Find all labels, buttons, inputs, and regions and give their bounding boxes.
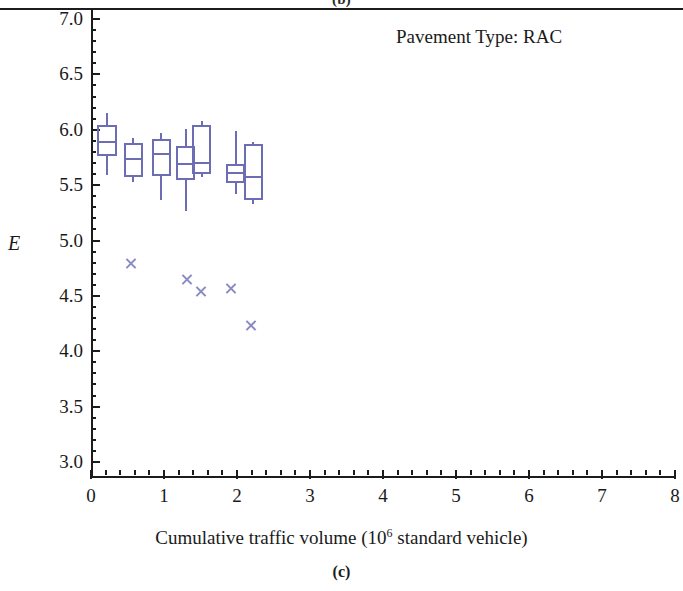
boxplot-lower-whisker	[160, 176, 162, 199]
x-axis-tick-major	[309, 470, 311, 479]
y-axis-tick-minor	[91, 361, 96, 363]
y-axis-tick-label: 6.5	[35, 64, 83, 83]
boxplot-median-line	[244, 176, 263, 178]
x-axis-tick-major	[382, 470, 384, 479]
y-axis-tick-minor	[91, 162, 96, 164]
boxplot-median-line	[152, 153, 171, 155]
x-axis-tick-major	[528, 470, 530, 479]
x-axis-tick-minor	[630, 470, 632, 475]
x-axis-tick-minor	[178, 470, 180, 475]
outlier-x-marker-1	[125, 257, 138, 270]
outlier-x-marker-3	[195, 285, 208, 298]
y-axis-tick-minor	[91, 84, 96, 86]
y-axis-tick-minor	[91, 284, 96, 286]
boxplot-box	[244, 144, 263, 199]
x-axis-tick-minor	[513, 470, 515, 475]
outlier-x-marker-5	[244, 319, 257, 332]
y-axis-tick-major	[91, 350, 100, 352]
x-axis-title-suffix: standard vehicle)	[393, 527, 528, 548]
x-axis-tick-label: 6	[509, 486, 549, 505]
y-axis-tick-major	[91, 184, 100, 186]
y-axis-tick-minor	[91, 251, 96, 253]
x-axis-tick-minor	[586, 470, 588, 475]
y-axis-tick-minor	[91, 328, 96, 330]
x-axis-title: Cumulative traffic volume (106 standard …	[0, 527, 683, 549]
y-axis-tick-minor	[91, 317, 96, 319]
boxplot-lower-whisker	[235, 183, 237, 194]
boxplot-lower-whisker	[185, 180, 187, 211]
y-axis-tick-label: 5.0	[35, 231, 83, 250]
y-axis-tick-label: 6.0	[35, 120, 83, 139]
y-axis-tick-major	[91, 461, 100, 463]
y-axis-tick-minor	[91, 217, 96, 219]
x-axis-tick-minor	[659, 470, 661, 475]
boxplot-lower-whisker	[106, 156, 108, 175]
y-axis-tick-minor	[91, 273, 96, 275]
x-axis-tick-major	[163, 470, 165, 479]
x-axis-tick-major	[236, 470, 238, 479]
boxplot-box	[152, 139, 171, 177]
figure-root: (b) 3.03.54.04.55.05.56.06.57.0 01234567…	[0, 0, 683, 591]
x-axis-tick-major	[674, 470, 676, 479]
x-axis-tick-minor	[543, 470, 545, 475]
x-axis-title-prefix: Cumulative traffic volume (10	[155, 527, 386, 548]
y-axis-tick-minor	[91, 29, 96, 31]
boxplot-lower-whisker	[132, 177, 134, 181]
y-axis-tick-major	[91, 73, 100, 75]
y-axis-tick-major	[91, 295, 100, 297]
x-axis-tick-minor	[557, 470, 559, 475]
y-axis-tick-minor	[91, 173, 96, 175]
outlier-x-marker-2	[180, 273, 193, 286]
outlier-x-marker-4	[225, 282, 238, 295]
y-axis-tick-minor	[91, 140, 96, 142]
y-axis-tick-minor	[91, 306, 96, 308]
y-axis-title: E	[8, 232, 20, 255]
x-axis-tick-minor	[294, 470, 296, 475]
y-axis-tick-major	[91, 240, 100, 242]
x-axis-tick-major	[90, 470, 92, 479]
x-axis-tick-major	[601, 470, 603, 479]
y-axis-tick-minor	[91, 40, 96, 42]
x-axis-tick-minor	[119, 470, 121, 475]
y-axis-tick-label: 7.0	[35, 9, 83, 28]
boxplot-lower-whisker	[201, 174, 203, 177]
x-axis-tick-label: 8	[655, 486, 683, 505]
boxplot-upper-whisker	[235, 131, 237, 164]
boxplot-upper-whisker	[185, 129, 187, 147]
boxplot-median-line	[226, 172, 245, 174]
x-axis-tick-label: 4	[363, 486, 403, 505]
x-axis-tick-minor	[411, 470, 413, 475]
x-axis-tick-minor	[338, 470, 340, 475]
y-axis-tick-label: 4.5	[35, 286, 83, 305]
x-axis-tick-label: 2	[217, 486, 257, 505]
y-axis-tick-minor	[91, 118, 96, 120]
x-axis-tick-minor	[616, 470, 618, 475]
y-axis-tick-label: 5.5	[35, 175, 83, 194]
x-axis-tick-minor	[572, 470, 574, 475]
x-axis-tick-minor	[207, 470, 209, 475]
y-axis-tick-minor	[91, 228, 96, 230]
x-axis-tick-minor	[353, 470, 355, 475]
boxplot-box	[192, 125, 211, 174]
boxplot-lower-whisker	[252, 200, 254, 204]
boxplot-upper-whisker	[106, 113, 108, 125]
x-axis-tick-minor	[645, 470, 647, 475]
y-axis-tick-minor	[91, 51, 96, 53]
boxplot-median-line	[192, 162, 211, 164]
y-axis-tick-minor	[91, 96, 96, 98]
x-axis-tick-minor	[251, 470, 253, 475]
x-axis-tick-minor	[367, 470, 369, 475]
y-axis-tick-minor	[91, 195, 96, 197]
x-axis-tick-minor	[280, 470, 282, 475]
x-axis-tick-label: 0	[71, 486, 111, 505]
x-axis-tick-minor	[397, 470, 399, 475]
y-axis-tick-label: 3.5	[35, 397, 83, 416]
y-axis-tick-major	[91, 18, 100, 20]
y-axis-tick-minor	[91, 417, 96, 419]
y-axis-tick-minor	[91, 383, 96, 385]
y-axis-tick-minor	[91, 206, 96, 208]
x-axis-tick-minor	[265, 470, 267, 475]
y-axis-tick-minor	[91, 428, 96, 430]
top-cropped-panel-label: (b)	[0, 0, 683, 8]
x-axis-tick-label: 1	[144, 486, 184, 505]
